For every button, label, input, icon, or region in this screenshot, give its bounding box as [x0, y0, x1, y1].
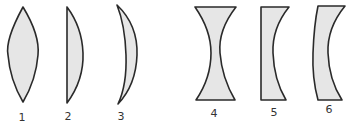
lens-4-biconcave: 4	[195, 7, 236, 120]
lens-5-plano-concave: 5	[261, 7, 289, 119]
lens-6-concave-meniscus: 6	[313, 6, 345, 116]
lens-2-shape	[67, 7, 83, 103]
lens-4-label: 4	[211, 107, 218, 120]
lens-5-shape	[261, 7, 289, 100]
lens-3-convex-meniscus: 3	[117, 5, 137, 123]
lens-3-shape	[117, 5, 137, 104]
lens-1-shape	[8, 7, 39, 102]
lens-diagram: 1 2 3 4 5 6	[0, 0, 353, 127]
lens-6-label: 6	[326, 103, 333, 116]
lens-1-label: 1	[19, 111, 26, 124]
lens-6-shape	[313, 6, 345, 100]
lens-2-label: 2	[65, 110, 72, 123]
lens-3-label: 3	[118, 110, 125, 123]
lens-1-biconvex: 1	[8, 7, 39, 124]
lens-2-plano-convex: 2	[65, 7, 84, 123]
lens-5-label: 5	[271, 106, 278, 119]
lens-4-shape	[195, 7, 236, 100]
